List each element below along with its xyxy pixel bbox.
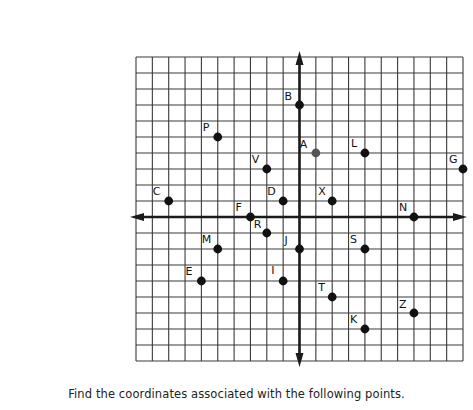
point-i: I	[271, 264, 287, 285]
point-marker	[361, 325, 370, 334]
point-marker	[213, 133, 222, 142]
x-axis-left-arrow-icon	[130, 213, 144, 221]
point-marker	[279, 197, 288, 206]
point-marker	[262, 229, 271, 238]
point-c: C	[153, 185, 173, 205]
point-j: J	[284, 234, 304, 253]
point-e: E	[185, 265, 205, 285]
point-marker	[164, 197, 173, 206]
point-marker	[328, 197, 337, 206]
point-n: N	[399, 201, 418, 221]
point-marker	[213, 245, 222, 254]
axes	[130, 51, 467, 367]
point-label: X	[318, 185, 326, 198]
point-label: B	[285, 90, 293, 103]
point-marker	[361, 149, 370, 158]
point-marker	[328, 293, 337, 302]
point-marker	[410, 309, 419, 318]
point-label: T	[317, 281, 325, 294]
point-label: V	[252, 153, 260, 166]
point-label: A	[300, 138, 308, 151]
point-label: Z	[399, 298, 407, 311]
point-label: S	[350, 233, 357, 246]
point-marker	[361, 245, 370, 254]
point-label: E	[185, 265, 192, 278]
point-t: T	[317, 281, 336, 301]
coordinate-grid: ABCDEFGIJKLMNPRSTVXZ	[0, 0, 473, 380]
point-marker	[279, 277, 288, 286]
point-r: R	[254, 218, 271, 237]
y-axis-up-arrow-icon	[296, 51, 304, 65]
point-marker	[295, 245, 304, 254]
y-axis-down-arrow-icon	[296, 353, 304, 367]
point-z: Z	[399, 298, 418, 317]
point-label: R	[254, 218, 262, 231]
point-label: K	[350, 313, 358, 326]
point-marker	[295, 101, 304, 110]
point-m: M	[202, 233, 222, 253]
point-label: G	[449, 153, 458, 166]
point-label: I	[271, 264, 274, 277]
point-marker	[311, 149, 320, 158]
point-v: V	[252, 153, 271, 173]
point-k: K	[350, 313, 369, 333]
point-f: F	[235, 201, 254, 221]
point-x: X	[318, 185, 336, 205]
point-l: L	[351, 137, 369, 157]
point-b: B	[285, 90, 304, 109]
x-axis-right-arrow-icon	[453, 213, 467, 221]
point-marker	[262, 165, 271, 174]
point-g: G	[449, 153, 467, 173]
point-label: J	[284, 234, 288, 247]
point-marker	[459, 165, 468, 174]
point-marker	[410, 213, 419, 222]
point-d: D	[267, 185, 287, 205]
point-marker	[197, 277, 206, 286]
point-label: D	[267, 185, 275, 198]
point-p: P	[203, 121, 222, 141]
point-label: N	[399, 201, 407, 214]
point-label: M	[202, 233, 212, 246]
point-label: C	[153, 185, 161, 198]
point-label: F	[235, 201, 241, 214]
point-label: L	[351, 137, 358, 150]
point-label: P	[203, 121, 210, 134]
point-s: S	[350, 233, 369, 253]
instruction-text: Find the coordinates associated with the…	[0, 387, 473, 401]
point-a: A	[300, 138, 320, 157]
